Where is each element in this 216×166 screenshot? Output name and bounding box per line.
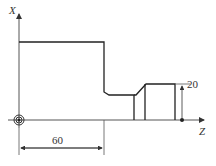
dim-60-label: 60	[52, 134, 64, 146]
origin-icon	[14, 115, 24, 125]
z-axis-label: Z	[199, 125, 206, 137]
dim-20-endpoint-icon	[180, 118, 184, 122]
part-chamfer-step	[134, 84, 175, 120]
part-outline	[19, 42, 134, 120]
x-axis-label: X	[8, 4, 17, 16]
part-profile-diagram: X Z 20 60	[0, 0, 216, 166]
dim-20-label: 20	[187, 78, 199, 90]
